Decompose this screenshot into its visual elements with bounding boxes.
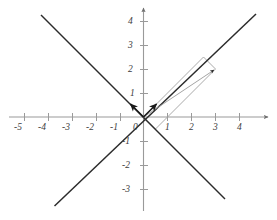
y-tick-label-2: 2: [128, 65, 133, 75]
x-tick-label--2: -2: [86, 123, 94, 133]
y-tick-label-4: 4: [128, 17, 133, 27]
x-tick-label--4: -4: [38, 123, 46, 133]
y-tick-label--2: -2: [122, 161, 130, 171]
x-tick-label--1: -1: [110, 123, 118, 133]
eigenvector-up-left: [131, 104, 144, 117]
x-tick-label-3: 3: [213, 123, 218, 133]
parallelogram-side-lower: [156, 69, 216, 129]
plot-canvas: [0, 0, 277, 220]
y-tick-label--1: -1: [122, 137, 130, 147]
x-tick-label-1: 1: [165, 123, 170, 133]
y-tick-label--3: -3: [122, 185, 130, 195]
axis-lines: [9, 8, 268, 211]
y-tick-label-1: 1: [130, 89, 135, 99]
resultant-vector: [144, 70, 215, 117]
x-tick-label-2: 2: [189, 123, 194, 133]
x-tick-label--3: -3: [62, 123, 70, 133]
x-tick-label--5: -5: [14, 123, 22, 133]
eigen-direction-lines: [41, 14, 256, 206]
x-tick-label-4: 4: [237, 123, 242, 133]
line-y-equals-x: [55, 14, 257, 206]
origin-label: 0: [133, 123, 138, 133]
y-tick-label-3: 3: [128, 41, 133, 51]
vector-decomposition-figure: -5 -4 -3 -2 -1 0 1 2 3 4 4 3 2 1 -1 -2 -…: [0, 0, 277, 220]
